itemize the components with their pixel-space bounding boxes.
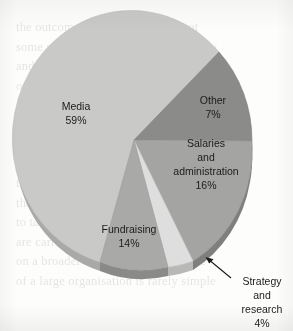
- label-media-value: 59%: [65, 114, 86, 126]
- label-salaries-line1: Salaries: [187, 137, 225, 149]
- pie-chart-svg: Media 59% Other 7% Salaries and administ…: [0, 0, 293, 331]
- label-salaries-line2: and: [197, 151, 215, 163]
- callout-leader: [206, 257, 232, 278]
- label-media-name: Media: [62, 100, 91, 112]
- pie-chart: Media 59% Other 7% Salaries and administ…: [0, 0, 293, 331]
- callout-strategy-research: Strategy and research 4%: [242, 275, 283, 329]
- label-other-value: 7%: [205, 108, 220, 120]
- callout-line2: and: [253, 289, 271, 301]
- label-other-name: Other: [200, 94, 227, 106]
- label-salaries-value: 16%: [195, 179, 216, 191]
- scanned-figure-page: the outcome of the campaign is not some …: [0, 0, 293, 331]
- callout-value: 4%: [254, 317, 269, 329]
- label-salaries-line3: administration: [173, 165, 239, 177]
- label-fundraising-value: 14%: [118, 237, 139, 249]
- label-fundraising-name: Fundraising: [102, 223, 157, 235]
- callout-leader-line: [208, 259, 231, 278]
- callout-line3: research: [242, 303, 283, 315]
- callout-line1: Strategy: [242, 275, 282, 287]
